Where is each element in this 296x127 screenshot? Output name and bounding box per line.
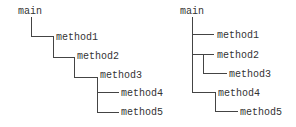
right-node-method1: method1	[217, 30, 259, 41]
left-node-method3: method3	[100, 70, 142, 81]
left-node-method1: method1	[56, 32, 98, 43]
right-node-method2: method2	[217, 50, 259, 61]
call-tree-diagrams: main method1 method2 method3 method4 met…	[0, 0, 296, 127]
right-node-method4: method4	[218, 88, 260, 99]
right-node-method5: method5	[240, 107, 282, 118]
right-node-method3: method3	[229, 69, 271, 80]
left-node-method2: method2	[77, 51, 119, 62]
left-node-method4: method4	[121, 88, 163, 99]
left-node-method5: method5	[121, 107, 163, 118]
left-call-tree: main method1 method2 method3 method4 met…	[18, 6, 163, 118]
left-root-main: main	[18, 6, 42, 17]
right-call-tree: main method1 method2 method3 method4 met…	[180, 6, 282, 118]
left-edge-method3-method5	[98, 78, 119, 113]
right-root-main: main	[180, 6, 204, 17]
left-edge-main-method1	[32, 17, 54, 37]
